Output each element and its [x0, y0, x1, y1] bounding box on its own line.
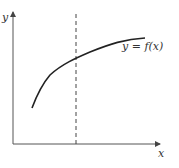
function-graph [0, 0, 179, 168]
curve-label: y = f(x) [122, 41, 163, 52]
x-axis-label: x [158, 148, 164, 159]
y-axis-label: y [2, 12, 8, 23]
